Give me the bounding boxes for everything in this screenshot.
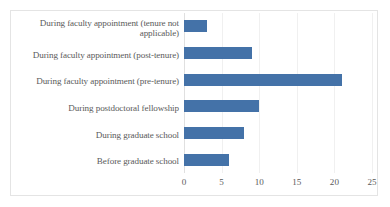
category-label: Before graduate school	[11, 148, 179, 175]
gridline	[334, 13, 335, 173]
chart-container: During faculty appointment (tenure not a…	[10, 10, 378, 196]
plot-area: During faculty appointment (tenure not a…	[11, 11, 379, 197]
bar	[184, 127, 244, 139]
category-label: During graduate school	[11, 122, 179, 149]
gridline	[372, 13, 373, 173]
bar	[184, 100, 259, 112]
x-tick-label: 15	[285, 177, 309, 188]
x-tick-label: 25	[360, 177, 384, 188]
category-label: During postdoctoral fellowship	[11, 95, 179, 122]
bar	[184, 20, 207, 32]
x-tick-label: 5	[210, 177, 234, 188]
x-tick-label: 10	[247, 177, 271, 188]
gridline	[297, 13, 298, 173]
value-axis-line	[184, 13, 185, 173]
category-label: During faculty appointment (post-tenure)	[11, 42, 179, 69]
x-tick-label: 20	[322, 177, 346, 188]
bar	[184, 74, 342, 86]
bar	[184, 47, 252, 59]
bar	[184, 154, 229, 166]
category-label: During faculty appointment (pre-tenure)	[11, 68, 179, 95]
gridline	[222, 13, 223, 173]
category-axis-labels: During faculty appointment (tenure not a…	[11, 13, 183, 173]
category-label: During faculty appointment (tenure not a…	[11, 15, 179, 42]
gridline	[259, 13, 260, 173]
x-tick-label: 0	[172, 177, 196, 188]
